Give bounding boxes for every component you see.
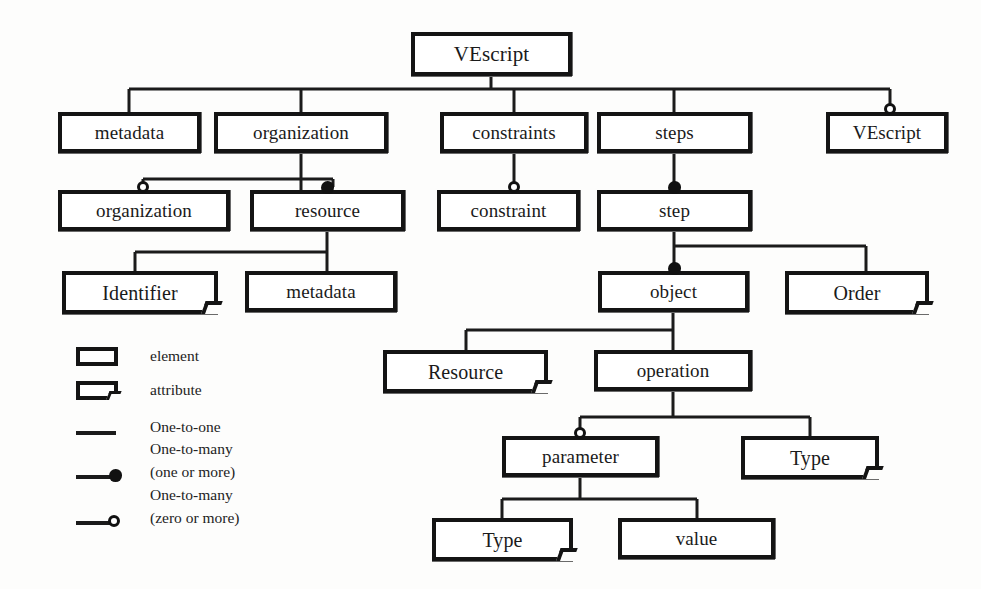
node-label: Identifier <box>102 283 177 303</box>
one-or-more-marker-icon <box>668 181 681 194</box>
element-box-icon <box>62 344 124 368</box>
node-label: Resource <box>428 362 503 382</box>
node-root[interactable]: VEscript <box>411 32 572 76</box>
node-vescript2[interactable]: VEscript <box>826 112 948 153</box>
node-label: metadata <box>95 123 164 142</box>
node-label: Type <box>790 448 830 468</box>
node-constraint[interactable]: constraint <box>437 190 580 231</box>
node-label: organization <box>253 123 349 142</box>
legend-row-zero-or-more <box>62 510 124 534</box>
node-resource[interactable]: resource <box>250 190 405 231</box>
node-label: VEscript <box>853 123 921 142</box>
node-step[interactable]: step <box>597 190 752 231</box>
node-order[interactable]: Order <box>785 271 929 314</box>
node-organization1[interactable]: organization <box>214 112 388 153</box>
zero-or-more-marker-icon <box>574 427 586 439</box>
legend-label-element: element <box>124 347 199 365</box>
node-label: Order <box>833 283 880 303</box>
filled-blob-line-icon <box>62 464 124 488</box>
node-label: steps <box>655 123 694 142</box>
node-label: operation <box>637 361 710 380</box>
node-value[interactable]: value <box>618 518 775 559</box>
diagram-canvas: VEscriptmetadataorganizationconstraintss… <box>0 0 981 589</box>
node-object[interactable]: object <box>598 271 749 312</box>
node-organization2[interactable]: organization <box>58 190 230 231</box>
node-label: constraint <box>471 201 547 220</box>
legend-label-one-to-one: One-to-one <box>150 418 221 437</box>
plain-line-icon <box>62 420 124 444</box>
legend-label-one-to-many-zero-line2: (zero or more) <box>150 509 240 528</box>
node-parameter[interactable]: parameter <box>502 436 659 477</box>
zero-or-more-marker-icon <box>884 103 896 115</box>
node-metadata2[interactable]: metadata <box>245 271 397 312</box>
node-label: constraints <box>472 123 555 142</box>
node-label: resource <box>295 201 360 220</box>
legend-label-one-to-many-zero-line1: One-to-many <box>150 486 233 505</box>
node-label: parameter <box>542 447 619 466</box>
legend-row-attribute: attribute <box>62 378 202 402</box>
node-label: VEscript <box>454 44 529 65</box>
node-constraints[interactable]: constraints <box>440 112 588 153</box>
attribute-box-icon <box>62 378 124 402</box>
hollow-ring-line-icon <box>62 510 124 534</box>
node-typeParam[interactable]: Type <box>432 518 573 561</box>
node-identifier[interactable]: Identifier <box>62 271 218 314</box>
legend-row-element: element <box>62 344 199 368</box>
legend-label-one-to-many-one-line2: (one or more) <box>150 463 235 482</box>
node-label: metadata <box>286 282 355 301</box>
node-label: organization <box>96 201 192 220</box>
legend-row-one-or-more <box>62 464 124 488</box>
zero-or-more-marker-icon <box>508 181 520 193</box>
one-or-more-marker-icon <box>668 262 681 275</box>
node-steps[interactable]: steps <box>597 112 752 153</box>
node-resourceAttr[interactable]: Resource <box>383 350 548 393</box>
node-label: object <box>650 282 697 301</box>
node-typeOp[interactable]: Type <box>741 436 879 479</box>
node-label: step <box>659 201 690 220</box>
one-or-more-marker-icon <box>321 181 334 194</box>
node-label: Type <box>482 530 522 550</box>
legend-label-attribute: attribute <box>124 381 202 399</box>
legend-label-one-to-many-one-line1: One-to-many <box>150 440 233 459</box>
zero-or-more-marker-icon <box>137 181 149 193</box>
node-label: value <box>676 529 718 548</box>
node-operation[interactable]: operation <box>594 350 752 391</box>
node-metadata1[interactable]: metadata <box>58 112 201 153</box>
legend: element attribute One-to-one One-to-many… <box>62 340 362 555</box>
legend-row-one-to-one <box>62 420 124 444</box>
